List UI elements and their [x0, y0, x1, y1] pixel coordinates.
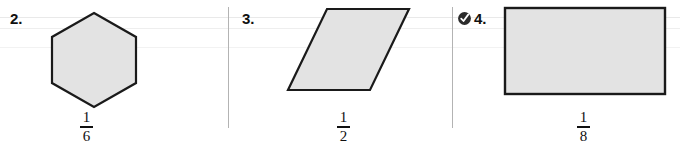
- fraction-denominator: 2: [338, 128, 350, 144]
- problem-number-2: 2.: [10, 10, 22, 27]
- fraction-denominator: 8: [578, 128, 590, 144]
- problem-divider: [228, 7, 229, 128]
- problem-2: 2. 1 6: [0, 0, 220, 155]
- problem-3: 3. 1 2: [236, 0, 452, 155]
- fraction-numerator: 1: [578, 110, 590, 126]
- fraction-1-6: 1 6: [80, 110, 93, 144]
- problem-divider: [452, 7, 453, 128]
- parallelogram-shape: [276, 2, 421, 111]
- problem-number-4: 4.: [474, 10, 486, 27]
- rectangle-shape: [503, 6, 669, 104]
- worksheet-row: 2. 1 6 3. 1 2: [0, 0, 680, 155]
- hexagon-shape: [44, 4, 154, 118]
- fraction-denominator: 6: [81, 128, 93, 144]
- problem-4: 4. 1 8: [457, 0, 680, 155]
- fraction-numerator: 1: [338, 110, 350, 126]
- problem-number-3: 3.: [242, 10, 254, 27]
- circled-check-icon: [457, 11, 472, 26]
- fraction-1-2: 1 2: [337, 110, 350, 144]
- fraction-numerator: 1: [81, 110, 93, 126]
- fraction-1-8: 1 8: [577, 110, 590, 144]
